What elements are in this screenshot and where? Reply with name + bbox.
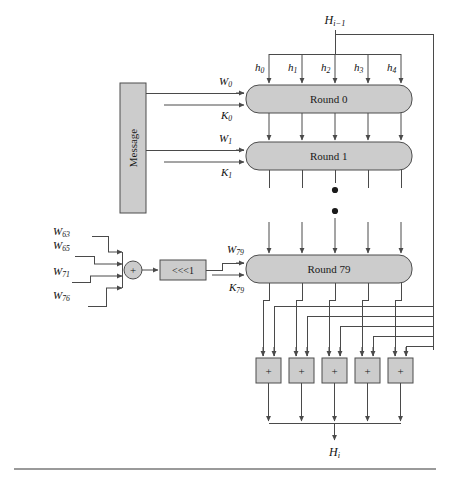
ellipsis-dot-0 <box>332 187 338 193</box>
ellipsis-dot-1 <box>332 208 338 214</box>
state-word-label-4: h4 <box>387 61 396 75</box>
k-label-0: K0 <box>221 109 232 123</box>
w-label-0-base: W <box>219 75 228 87</box>
adder-symbol-3: + <box>365 365 371 377</box>
expansion-tap-label-0-sub: 63 <box>62 230 70 239</box>
w-label-0-sub: 0 <box>228 80 232 89</box>
expansion-tap-label-0: W63 <box>53 225 70 239</box>
rotate-block-label: <<<1 <box>172 265 194 276</box>
w79-feed-line <box>206 263 244 270</box>
expansion-tap-label-3-base: W <box>53 289 62 301</box>
k79-label-sub: 79 <box>236 286 244 295</box>
round79-out-0 <box>263 283 269 356</box>
chaining-input-label: Hi−1 <box>325 13 346 28</box>
chaining-input-label-sub: i−1 <box>333 19 345 28</box>
round79-out-4 <box>395 283 401 356</box>
state-word-label-3: h3 <box>354 61 363 75</box>
w-label-0: W0 <box>219 75 232 89</box>
round79-out-1 <box>296 283 302 356</box>
w-label-1-base: W <box>219 132 228 144</box>
state-word-label-3-sub: 3 <box>360 66 364 75</box>
state-word-label-1: h1 <box>288 61 297 75</box>
feedback-branch-0 <box>274 306 433 356</box>
adder-symbol-0: + <box>266 365 272 377</box>
k-label-1-sub: 1 <box>228 171 232 180</box>
chaining-output-label: Hi <box>329 445 340 460</box>
w-label-1: W1 <box>219 132 232 146</box>
round-box-label-0: Round 0 <box>310 93 348 105</box>
state-word-label-2-sub: 2 <box>327 66 331 75</box>
tap-path-0 <box>92 236 108 252</box>
message-block-label: Message <box>127 129 139 168</box>
expansion-tap-label-1-sub: 65 <box>62 244 70 253</box>
tap-path-1 <box>75 256 94 264</box>
k-label-1: K1 <box>221 166 232 180</box>
round79-out-3 <box>362 283 368 356</box>
feedback-branch-4 <box>406 346 433 356</box>
tap-path-2 <box>72 276 90 282</box>
expansion-tap-label-1: W65 <box>53 239 70 253</box>
state-word-label-4-sub: 4 <box>393 66 397 75</box>
expansion-tap-label-3-sub: 76 <box>62 294 70 303</box>
w-label-1-sub: 1 <box>228 137 232 146</box>
xor-symbol: + <box>130 264 136 276</box>
state-word-label-0-sub: 0 <box>261 66 265 75</box>
expansion-tap-label-0-base: W <box>53 225 62 237</box>
expansion-tap-label-2-sub: 71 <box>62 270 70 279</box>
chaining-input-label-base: H <box>325 13 334 27</box>
w79-label-sub: 79 <box>236 248 244 257</box>
chaining-output-label-sub: i <box>338 451 340 460</box>
round-box-label-1: Round 1 <box>310 150 348 162</box>
expansion-tap-label-2: W71 <box>53 265 70 279</box>
adder-symbol-1: + <box>299 365 305 377</box>
feedback-branch-2 <box>340 326 433 356</box>
chaining-output-label-base: H <box>329 445 338 459</box>
state-word-label-2: h2 <box>321 61 330 75</box>
tap-path-3 <box>88 288 106 306</box>
w79-label-base: W <box>227 243 236 255</box>
sha1-block-diagram: Hi−1h0h1h2h3h4MessageRound 0Round 1Round… <box>0 0 450 477</box>
expansion-tap-label-3: W76 <box>53 289 70 303</box>
round79-out-2 <box>329 283 335 356</box>
adder-symbol-2: + <box>332 365 338 377</box>
round-box-label-2: Round 79 <box>308 263 351 275</box>
state-word-label-1-sub: 1 <box>294 66 298 75</box>
k79-label: K79 <box>229 281 244 295</box>
expansion-tap-label-1-base: W <box>53 239 62 251</box>
expansion-tap-label-2-base: W <box>53 265 62 277</box>
k-label-0-sub: 0 <box>228 114 232 123</box>
w79-label: W79 <box>227 243 244 257</box>
state-word-label-0: h0 <box>255 61 264 75</box>
adder-symbol-4: + <box>398 365 404 377</box>
feedback-rail <box>335 34 433 350</box>
